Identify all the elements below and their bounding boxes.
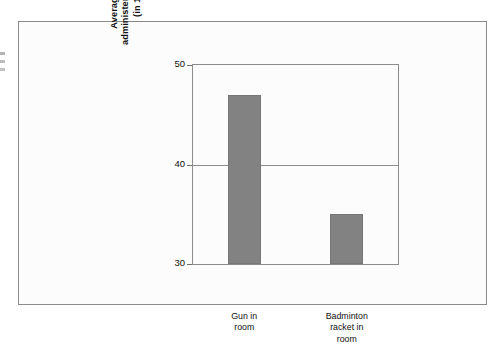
x-tick-label-0-line-2: room <box>193 322 296 333</box>
scan-edge-artifact <box>0 52 5 78</box>
y-tick-label-50: 50 <box>159 59 185 69</box>
y-tick-label-40: 40 <box>159 159 185 169</box>
y-tick-mark-30 <box>187 264 192 265</box>
y-axis-title: Average duration of shocks administered … <box>103 0 149 66</box>
y-axis-title-line-3: (in 1000th of a minute) <box>132 0 143 17</box>
y-axis-title-line-1: Average duration of shocks <box>109 0 120 29</box>
y-axis-title-line-2: administered by angry participants <box>120 0 131 45</box>
gridline-40 <box>193 165 398 166</box>
x-tick-label-1-line-3: room <box>296 334 399 345</box>
bar-gun-in-room[interactable] <box>228 95 261 264</box>
plot-area: 50 40 30 Gun in room Badminton racket in… <box>192 64 399 265</box>
y-tick-mark-40 <box>187 165 192 166</box>
bar-badminton-racket-in-room[interactable] <box>330 214 363 264</box>
x-tick-label-0-line-1: Gun in <box>193 311 296 322</box>
x-tick-label-1-line-1: Badminton <box>296 311 399 322</box>
x-tick-label-1-line-2: racket in <box>296 322 399 333</box>
y-tick-mark-50 <box>187 65 192 66</box>
figure-frame: Average duration of shocks administered … <box>18 21 487 305</box>
x-tick-label-badminton-racket-in-room: Badminton racket in room <box>296 311 399 345</box>
x-tick-label-gun-in-room: Gun in room <box>193 311 296 334</box>
y-tick-label-30: 30 <box>159 258 185 268</box>
